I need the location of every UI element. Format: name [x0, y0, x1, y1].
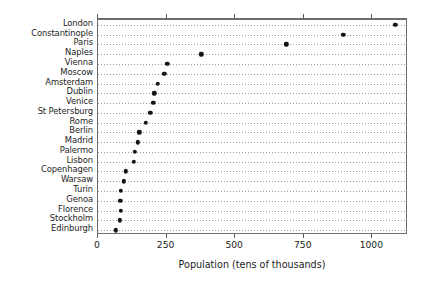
- gridline-row: [98, 132, 406, 133]
- gridline-row: [98, 84, 406, 85]
- category-label: Vienna: [0, 58, 93, 67]
- gridline-row: [98, 162, 406, 163]
- category-label: Stockholm: [0, 214, 93, 223]
- category-label: Moscow: [0, 68, 93, 77]
- category-label: Genoa: [0, 195, 93, 204]
- gridline-row: [98, 142, 406, 143]
- category-label: Copenhagen: [0, 165, 93, 174]
- category-label: Madrid: [0, 136, 93, 145]
- gridline-row: [98, 220, 406, 221]
- category-label: Warsaw: [0, 175, 93, 184]
- category-label: Amsterdam: [0, 78, 93, 87]
- data-point: [151, 101, 155, 105]
- gridline-row: [98, 181, 406, 182]
- data-point: [162, 72, 166, 76]
- data-point: [118, 218, 122, 222]
- category-label: Constantinople: [0, 29, 93, 38]
- gridline-row: [98, 152, 406, 153]
- category-label: Naples: [0, 48, 93, 57]
- x-tick-label: 750: [294, 239, 312, 250]
- data-point: [119, 189, 123, 193]
- data-point: [341, 32, 345, 36]
- category-label: Venice: [0, 97, 93, 106]
- x-tick-mark: [234, 234, 235, 238]
- x-tick-label: 250: [157, 239, 175, 250]
- category-label: Berlin: [0, 126, 93, 135]
- data-point: [393, 23, 397, 27]
- data-point: [114, 228, 118, 232]
- x-tick-mark: [303, 234, 304, 238]
- category-label: Rome: [0, 117, 93, 126]
- data-point: [199, 52, 203, 56]
- gridline-row: [98, 113, 406, 114]
- x-axis-top-spine: [97, 18, 407, 19]
- x-tick-mark: [371, 234, 372, 238]
- data-point: [132, 160, 136, 164]
- gridline-row: [98, 191, 406, 192]
- gridline-row: [98, 201, 406, 202]
- gridline-row: [98, 93, 406, 94]
- gridline-row: [98, 54, 406, 55]
- population-dot-chart: LondonConstantinopleParisNaplesViennaMos…: [0, 0, 422, 283]
- gridline-row: [98, 64, 406, 65]
- data-point: [156, 81, 160, 85]
- gridline-row: [98, 74, 406, 75]
- category-label: Edinburgh: [0, 224, 93, 233]
- data-point: [148, 111, 152, 115]
- category-label: Florence: [0, 205, 93, 214]
- data-point: [152, 91, 156, 95]
- data-point: [121, 179, 125, 183]
- category-label: Dublin: [0, 87, 93, 96]
- gridline-row: [98, 211, 406, 212]
- category-label: Palermo: [0, 146, 93, 155]
- category-axis: LondonConstantinopleParisNaplesViennaMos…: [0, 19, 93, 234]
- data-point: [144, 120, 148, 124]
- gridline-row: [98, 25, 406, 26]
- x-axis-tick-labels: 02505007501000: [0, 239, 422, 253]
- category-label: London: [0, 19, 93, 28]
- category-label: Lisbon: [0, 156, 93, 165]
- category-label: Turin: [0, 185, 93, 194]
- data-point: [136, 140, 140, 144]
- data-point: [284, 42, 288, 46]
- gridline-row: [98, 230, 406, 231]
- x-axis-title: Population (tens of thousands): [97, 259, 407, 270]
- gridline-row: [98, 103, 406, 104]
- data-point: [133, 150, 137, 154]
- gridline-row: [98, 171, 406, 172]
- category-label: Paris: [0, 38, 93, 47]
- x-tick-mark: [97, 234, 98, 238]
- x-tick-label: 0: [94, 239, 100, 250]
- gridline-row: [98, 44, 406, 45]
- x-tick-label: 500: [225, 239, 243, 250]
- x-tick-label: 1000: [360, 239, 383, 250]
- x-tick-mark: [166, 234, 167, 238]
- data-point: [119, 208, 123, 212]
- data-point: [165, 62, 169, 66]
- category-label: St Petersburg: [0, 107, 93, 116]
- data-point: [124, 169, 128, 173]
- data-point: [118, 199, 122, 203]
- gridline-row: [98, 35, 406, 36]
- plot-area: [97, 19, 407, 234]
- x-axis-ticks-top: [97, 12, 407, 20]
- data-point: [137, 130, 141, 134]
